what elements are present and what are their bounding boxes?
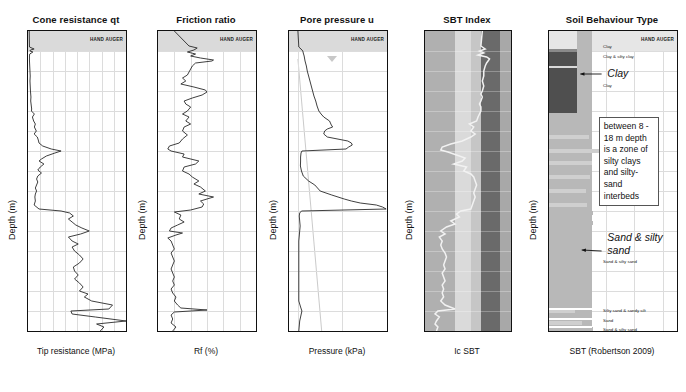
sbt-bar — [549, 161, 592, 165]
x-minor-tick — [431, 331, 432, 332]
panel-title-0: Cone resistance qt — [27, 14, 125, 25]
plot-area-4: HAND AUGER024681012141618202224262830048… — [548, 30, 678, 332]
x-tick-mark — [663, 331, 664, 332]
x-minor-tick — [570, 331, 571, 332]
x-axis-label-4: SBT (Robertson 2009) — [548, 346, 676, 356]
panel-title-4: Soil Behaviour Type — [548, 14, 676, 25]
depth-tick-mark — [548, 331, 549, 332]
x-minor-tick — [454, 331, 455, 332]
x-tick-mark — [207, 331, 208, 332]
x-minor-tick — [585, 331, 586, 332]
x-tick-mark — [240, 331, 241, 332]
x-tick-mark — [425, 331, 426, 332]
soil-type-label: Clay — [603, 83, 612, 88]
x-tick-mark — [158, 331, 159, 332]
sbt-bar — [549, 211, 593, 215]
x-tick-mark — [606, 331, 607, 332]
x-tick-mark — [454, 331, 455, 332]
depth-axis-label-4: Depth (m) — [528, 200, 538, 240]
hand-auger-label: HAND AUGER — [641, 37, 674, 42]
sbt-bar — [549, 149, 602, 153]
x-minor-tick — [677, 331, 678, 332]
x-minor-tick — [482, 331, 483, 332]
gridline-x — [663, 31, 664, 331]
x-minor-tick — [606, 331, 607, 332]
x-minor-tick — [477, 331, 478, 332]
depth-axis-label-2: Depth (m) — [268, 200, 278, 240]
x-tick-mark — [102, 331, 103, 332]
sbt-bar — [549, 155, 581, 159]
sbt-bar — [549, 189, 586, 193]
panel-title-1: Friction ratio — [157, 14, 255, 25]
sbt-bar — [549, 203, 587, 207]
x-tick-mark — [342, 331, 343, 332]
x-axis-label-1: Rf (%) — [157, 346, 255, 356]
annotation-sand: Sand & silty sand — [607, 231, 665, 257]
data-trace-0 — [28, 31, 126, 331]
x-minor-tick — [634, 331, 635, 332]
x-minor-tick — [471, 331, 472, 332]
sbt-bar — [549, 195, 581, 199]
x-minor-tick — [425, 331, 426, 332]
depth-tick-mark — [424, 331, 425, 332]
x-minor-tick — [670, 331, 671, 332]
x-tick-mark — [223, 331, 224, 332]
x-axis-label-2: Pressure (kPa) — [288, 346, 386, 356]
x-tick-mark — [89, 331, 90, 332]
depth-axis-label-3: Depth (m) — [404, 200, 414, 240]
x-minor-tick — [448, 331, 449, 332]
data-trace-1 — [158, 31, 256, 331]
soil-type-label: Silty sand & sandy silt — [603, 308, 646, 313]
data-trace-2 — [289, 31, 387, 331]
sbt-separator — [549, 318, 592, 320]
sbt-bar — [549, 135, 589, 139]
x-tick-mark — [53, 331, 54, 332]
x-tick-mark — [256, 331, 257, 332]
water-table-marker — [327, 56, 337, 62]
x-minor-tick — [459, 331, 460, 332]
x-minor-tick — [656, 331, 657, 332]
sbt-bar — [549, 113, 581, 117]
x-minor-tick — [549, 331, 550, 332]
plot-area-3: 0246810121416182022242628301234 — [424, 30, 512, 332]
x-minor-tick — [436, 331, 437, 332]
x-minor-tick — [620, 331, 621, 332]
x-tick-mark — [482, 331, 483, 332]
plot-area-2: HAND AUGER024681012141618202224262830050… — [288, 30, 388, 332]
x-minor-tick — [556, 331, 557, 332]
soil-type-label: Sand & silty sand — [603, 327, 637, 332]
sbt-auger-column — [549, 31, 577, 49]
x-minor-tick — [563, 331, 564, 332]
x-tick-mark — [511, 331, 512, 332]
depth-tick-mark — [157, 331, 158, 332]
x-tick-mark — [577, 331, 578, 332]
sbt-clay-column — [549, 49, 577, 114]
x-tick-mark — [28, 331, 29, 332]
sbt-sand-stripe — [549, 321, 582, 325]
x-tick-mark — [191, 331, 192, 332]
x-tick-mark — [387, 331, 388, 332]
plot-area-0: HAND AUGER024681012141618202224262830051… — [27, 30, 127, 332]
sbt-bar — [549, 141, 581, 145]
annotation-clay: Clay — [607, 67, 628, 79]
sbt-bar — [549, 167, 581, 171]
sbt-bar — [549, 175, 590, 179]
plot-area-1: HAND AUGER024681012141618202224262830012… — [157, 30, 257, 332]
soil-type-label: Clay & silty clay — [603, 54, 634, 59]
sbt-clay-stripe — [549, 66, 577, 68]
cpt-log-figure: Cone resistance qtHAND AUGER024681012141… — [0, 0, 686, 392]
sbt-clay-cap — [549, 49, 577, 52]
x-minor-tick — [613, 331, 614, 332]
sbt-separator — [549, 308, 592, 310]
callout-textbox: between 8 - 18 m depth is a zone of silt… — [599, 117, 659, 206]
sbt-separator — [549, 326, 592, 328]
soil-type-label: Sand — [603, 318, 613, 323]
x-minor-tick — [577, 331, 578, 332]
sbt-bar — [549, 125, 581, 129]
sbt-bar — [549, 221, 593, 225]
x-minor-tick — [627, 331, 628, 332]
x-minor-tick — [505, 331, 506, 332]
panel-title-2: Pore pressure u — [288, 14, 386, 25]
data-trace-3 — [425, 31, 511, 331]
x-minor-tick — [494, 331, 495, 332]
